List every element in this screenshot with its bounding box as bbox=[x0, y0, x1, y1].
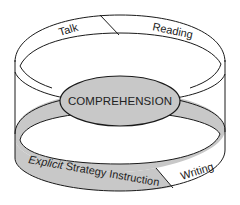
center-ellipse-group: COMPREHENSION bbox=[60, 76, 180, 126]
center-label: COMPREHENSION bbox=[68, 95, 172, 107]
comprehension-diagram: COMPREHENSION Talk Reading Explicit Stra… bbox=[0, 0, 240, 205]
